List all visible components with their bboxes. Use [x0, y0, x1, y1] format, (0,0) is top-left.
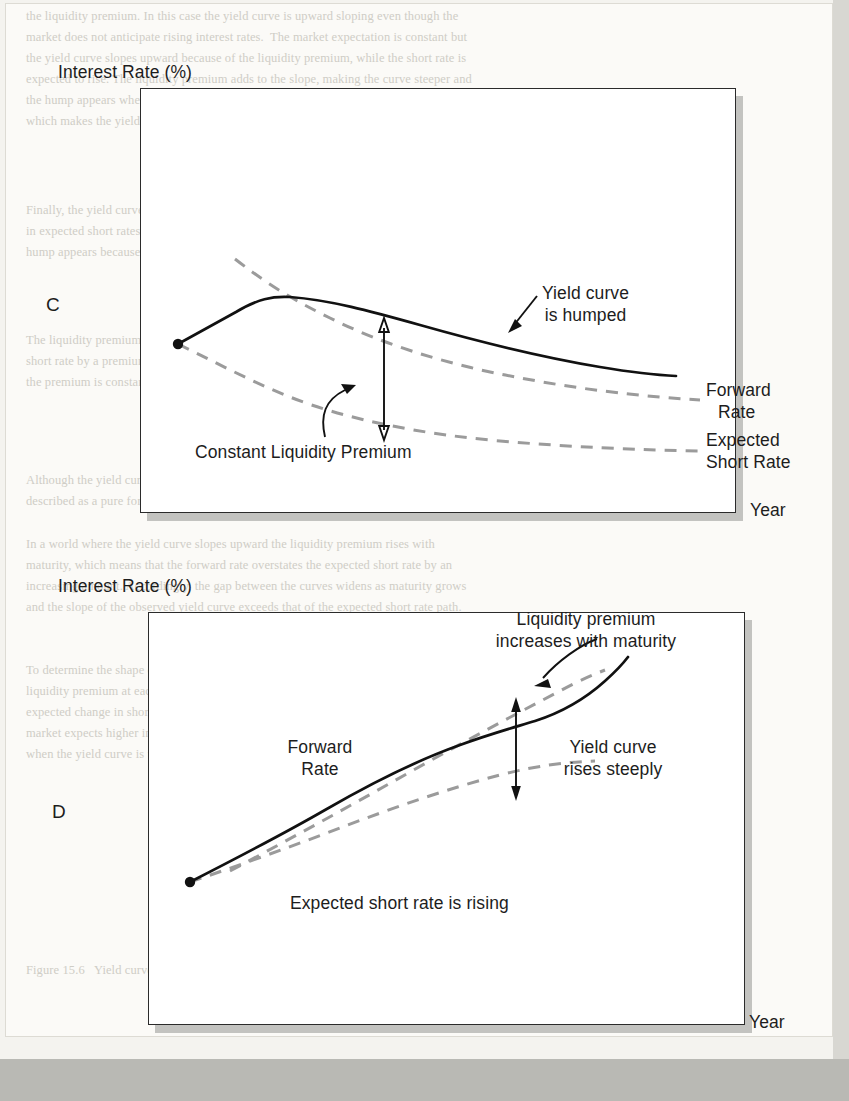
panel-c-expected-short-rate-curve [178, 344, 700, 451]
panel-c-yield-curve-note: Yield curve is humped [542, 282, 629, 326]
panel-c-yield-curve-note-line2: is humped [542, 304, 629, 326]
panel-d-origin-dot [185, 877, 195, 887]
scanned-page: the liquidity premium. In this case the … [0, 0, 849, 1101]
panel-d: Interest Rate (%) D Year [0, 556, 849, 1056]
panel-c-expected-short-rate-legend: Expected Short Rate [706, 429, 791, 473]
panel-d-premium-double-arrow [511, 697, 521, 801]
panel-d-liquidity-premium-note: Liquidity premium increases with maturit… [430, 608, 742, 652]
panel-c-expected-short-rate-legend-line1: Expected [706, 429, 791, 451]
panel-d-liquidity-premium-note-line2: increases with maturity [430, 630, 742, 652]
panel-c-premium-callout-arrow [323, 384, 356, 437]
panel-d-yield-curve-note: Yield curve rises steeply [538, 736, 688, 780]
panel-c-forward-rate-legend-line2: Rate [706, 401, 771, 423]
panel-d-forward-rate-legend: Forward Rate [245, 736, 395, 780]
panel-c-yield-curve-note-line1: Yield curve [542, 282, 629, 304]
panel-d-yield-curve-note-line2: rises steeply [538, 758, 688, 780]
panel-d-expected-short-rate-note: Expected short rate is rising [290, 892, 509, 914]
panel-c-expected-short-rate-legend-line2: Short Rate [706, 451, 791, 473]
panel-c: Interest Rate (%) C Year [0, 0, 849, 545]
panel-c-origin-dot [173, 339, 183, 349]
panel-c-premium-double-arrow [379, 318, 389, 440]
panel-c-yield-curve-callout-arrow [508, 296, 537, 333]
panel-c-forward-rate-legend: Forward Rate [706, 379, 771, 423]
panel-c-forward-rate-curve [235, 259, 700, 400]
panel-c-liquidity-premium-note: Constant Liquidity Premium [195, 441, 412, 463]
panel-d-forward-rate-legend-line2: Rate [245, 758, 395, 780]
panel-d-forward-rate-legend-line1: Forward [245, 736, 395, 758]
panel-c-forward-rate-legend-line1: Forward [706, 379, 771, 401]
panel-d-yield-curve-note-line1: Yield curve [538, 736, 688, 758]
panel-d-liquidity-premium-note-line1: Liquidity premium [430, 608, 742, 630]
page-bottom-band [0, 1059, 849, 1101]
